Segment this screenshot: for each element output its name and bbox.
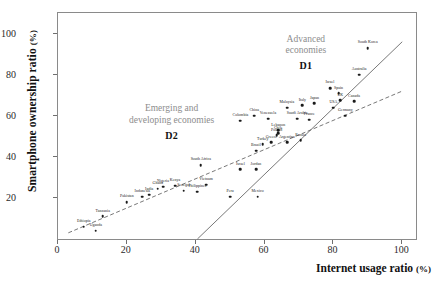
data-point-label: Tanzania [96, 210, 110, 214]
y-tick-mark [53, 33, 57, 34]
x-tick-label: 40 [190, 244, 200, 255]
data-point-label: Ethiopia [77, 220, 91, 224]
data-point-label: Australia [352, 68, 367, 72]
x-axis-title-text: Internet usage ratio [316, 262, 413, 274]
data-points-layer: South KoreaAustraliaIsraelSpainUKCanadaJ… [58, 13, 416, 239]
data-point [299, 139, 302, 142]
data-point [301, 104, 304, 107]
data-point [286, 141, 289, 144]
y-axis-unit: (%) [28, 30, 38, 45]
x-tick-mark [195, 240, 196, 244]
annotation-line-1: Advanced [287, 34, 326, 44]
data-point-label: Pakistan [120, 195, 134, 199]
data-point [353, 100, 356, 103]
data-point [239, 120, 242, 123]
data-point [339, 99, 342, 102]
data-point [200, 164, 203, 167]
data-point [344, 114, 347, 117]
x-axis-title: Internet usage ratio (%) [0, 262, 437, 274]
data-point-label: Jordan [251, 163, 262, 167]
data-point [126, 201, 129, 204]
data-point-label: Chile [274, 127, 283, 131]
annotation-code: D2 [129, 130, 214, 142]
x-tick-mark [264, 240, 265, 244]
data-point-label: Vietnam [199, 178, 213, 182]
data-point-label: Japan [310, 97, 319, 101]
data-point [162, 185, 165, 188]
data-point [296, 118, 299, 121]
data-point-label: Peru [226, 190, 233, 194]
data-point [332, 106, 335, 109]
data-point [329, 87, 332, 90]
x-tick-mark [126, 240, 127, 244]
y-axis-title-text: Smartphone ownership ratio [26, 48, 38, 192]
x-tick-label: 0 [55, 244, 60, 255]
data-point-label: Canada [348, 95, 360, 99]
annotation-line-1: Emerging and [145, 103, 198, 113]
data-point [141, 196, 144, 199]
y-tick-label: 40 [6, 150, 16, 161]
group-annotation-d2: Emerging anddeveloping economiesD2 [129, 103, 214, 141]
data-point-label: South Korea [358, 41, 378, 45]
data-point [262, 143, 265, 146]
data-point [83, 225, 86, 228]
data-point [95, 229, 98, 232]
data-point [286, 106, 289, 109]
annotation-line-2: developing economies [129, 115, 214, 125]
data-point [267, 118, 270, 121]
data-point [174, 184, 177, 187]
x-tick-mark [401, 240, 402, 244]
y-axis-title: Smartphone ownership ratio (%) [26, 0, 38, 226]
x-tick-label: 60 [259, 244, 269, 255]
x-tick-label: 20 [121, 244, 131, 255]
y-tick-label: 100 [1, 27, 16, 38]
data-point [229, 196, 232, 199]
data-point [101, 215, 104, 218]
group-annotation-d1: AdvancedeconomiesD1 [286, 34, 327, 72]
x-tick-label: 80 [327, 244, 337, 255]
data-point [239, 168, 242, 171]
data-point-label: Nigeria [157, 180, 169, 184]
data-point [148, 194, 151, 197]
data-point [253, 114, 256, 117]
data-point [157, 187, 160, 190]
y-tick-mark [53, 156, 57, 157]
x-tick-mark [332, 240, 333, 244]
data-point-label: Malaysia [280, 101, 295, 105]
data-point [308, 119, 311, 122]
data-point-label: India [145, 188, 153, 192]
data-point-label: Spain [334, 87, 343, 91]
y-tick-mark [53, 115, 57, 116]
data-point-label: Russia [295, 134, 306, 138]
data-point-label: Italy [299, 99, 306, 103]
data-point-label: Philippines [188, 185, 206, 189]
x-axis-unit: (%) [416, 264, 431, 274]
y-tick-mark [53, 74, 57, 75]
data-point-label: Turkey [257, 138, 268, 142]
data-point [270, 141, 273, 144]
data-point [367, 47, 370, 50]
data-point [313, 102, 316, 105]
data-point [196, 190, 199, 193]
data-point-label: USA [329, 101, 337, 105]
data-point-label: China [249, 109, 259, 113]
x-tick-mark [57, 240, 58, 244]
y-tick-label: 60 [6, 109, 16, 120]
y-tick-mark [53, 197, 57, 198]
data-point [255, 168, 258, 171]
data-point-label: Argentina [279, 136, 295, 140]
data-point-label: South Africa [191, 158, 211, 162]
x-tick-label: 100 [394, 244, 409, 255]
annotation-code: D1 [286, 60, 327, 72]
data-point [205, 183, 208, 186]
data-point-label: UK [337, 94, 343, 98]
data-point-label: Israel [236, 163, 245, 167]
data-point [182, 189, 185, 192]
data-point [256, 196, 259, 199]
data-point-label: Brazil [251, 144, 261, 148]
data-point [255, 149, 258, 152]
chart-root: Smartphone ownership ratio (%) Internet … [0, 0, 437, 284]
annotation-line-2: economies [286, 45, 327, 55]
y-tick-label: 80 [6, 68, 16, 79]
data-point-label: Venezuela [260, 112, 276, 116]
